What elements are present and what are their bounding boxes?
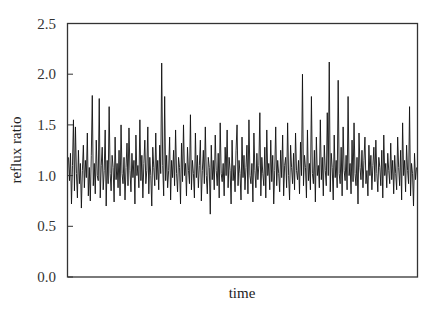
y-tick-label: 0.0 bbox=[37, 269, 56, 285]
y-tick-label: 2.0 bbox=[37, 66, 56, 82]
y-tick-label: 0.5 bbox=[37, 218, 56, 234]
y-tick-label: 1.5 bbox=[37, 117, 56, 133]
y-tick-label: 1.0 bbox=[37, 168, 56, 184]
chart-background bbox=[0, 0, 433, 312]
y-tick-label: 2.5 bbox=[37, 16, 56, 32]
x-axis-label: time bbox=[229, 285, 256, 301]
y-axis-label: reflux ratio bbox=[8, 116, 24, 183]
chart: 0.00.51.01.52.02.5 time reflux ratio bbox=[0, 0, 433, 312]
